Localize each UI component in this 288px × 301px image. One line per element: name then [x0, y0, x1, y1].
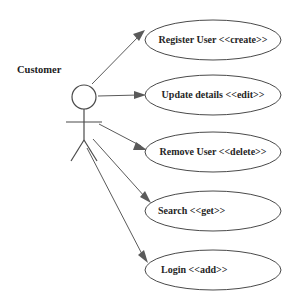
- use-case-label: Search <<get>>: [158, 205, 226, 216]
- actor-right-leg-icon: [84, 140, 97, 161]
- arrow-head-icon: [134, 91, 146, 99]
- diagram-svg-root: Customer Register User <<create>> Update…: [0, 0, 288, 301]
- use-case-label: Register User <<create>>: [159, 34, 268, 45]
- use-case-update-details[interactable]: Update details <<edit>>: [145, 75, 281, 115]
- association-customer-to-login: [87, 148, 148, 263]
- use-case-search[interactable]: Search <<get>>: [145, 191, 281, 231]
- actor-customer[interactable]: Customer: [17, 64, 102, 161]
- actor-label: Customer: [17, 64, 62, 75]
- association-customer-to-remove-user: [99, 124, 147, 150]
- use-case-label: Remove User <<delete>>: [159, 146, 266, 157]
- use-case-login[interactable]: Login <<add>>: [145, 250, 281, 290]
- arrow-head-icon: [133, 30, 145, 41]
- use-case-diagram-canvas: Customer Register User <<create>> Update…: [0, 0, 288, 301]
- association-line: [92, 35, 140, 84]
- actor-left-leg-icon: [71, 140, 84, 161]
- use-case-register-user[interactable]: Register User <<create>>: [145, 20, 281, 60]
- association-customer-to-update-details: [98, 91, 146, 99]
- use-case-remove-user[interactable]: Remove User <<delete>>: [145, 132, 281, 172]
- arrow-head-icon: [138, 250, 148, 263]
- use-case-label: Update details <<edit>>: [162, 89, 265, 100]
- association-customer-to-register-user: [92, 30, 145, 84]
- association-line: [98, 95, 139, 96]
- use-case-label: Login <<add>>: [161, 264, 228, 275]
- association-line: [99, 124, 141, 146]
- actor-head-icon: [72, 85, 96, 109]
